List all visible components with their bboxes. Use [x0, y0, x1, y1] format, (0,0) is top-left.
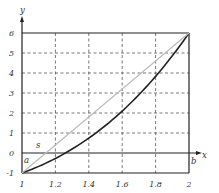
y-tick-label: 1 — [9, 129, 14, 138]
y-tick-label: 6 — [9, 29, 14, 38]
x-tick-label: 1.4 — [82, 180, 95, 189]
annotation-b: b — [191, 156, 196, 166]
series-group — [22, 33, 189, 173]
y-tick-label: 4 — [8, 69, 14, 78]
x-tick-label: 1.2 — [49, 180, 62, 189]
x-tick-label: 1.8 — [149, 180, 162, 189]
y-tick-label: 3 — [9, 89, 14, 98]
chart: 11.21.41.61.82-10123456 y x a b s — [0, 0, 219, 193]
x-tick-label: 1.6 — [116, 180, 129, 189]
y-tick-label: 0 — [9, 149, 14, 158]
y-axis-arrow-icon — [20, 16, 24, 22]
axes — [20, 16, 202, 173]
y-tick-label: -1 — [6, 169, 14, 178]
y-axis-label: y — [19, 5, 25, 15]
x-tick-label: 1 — [19, 180, 24, 189]
y-tick-label: 2 — [8, 109, 14, 118]
axis-labels: y x a b s — [19, 5, 207, 166]
annotation-s: s — [36, 140, 41, 150]
y-tick-label: 5 — [9, 49, 14, 58]
annotation-a: a — [24, 155, 29, 165]
x-tick-label: 2 — [185, 180, 191, 189]
series-secant — [22, 33, 189, 173]
x-axis-label: x — [202, 150, 207, 160]
